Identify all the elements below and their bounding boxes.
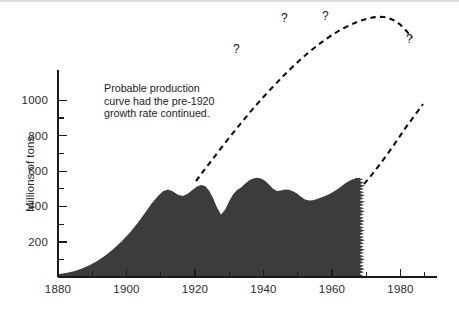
chart-annotation: Probable production curve had the pre-19… — [104, 82, 232, 120]
question-mark-3: ? — [281, 12, 288, 24]
y-tick-label-600: 600 — [8, 165, 48, 177]
post-1973-dashed-curve — [364, 104, 423, 184]
y-tick-label-400: 400 — [8, 200, 48, 212]
question-mark-1: ? — [233, 43, 240, 55]
y-tick-label-200: 200 — [8, 236, 48, 248]
x-tick-label-1900: 1900 — [102, 283, 152, 295]
x-tick-label-1920: 1920 — [170, 283, 220, 295]
chart-plot-svg — [0, 0, 459, 311]
x-tick-label-1880: 1880 — [33, 283, 83, 295]
question-mark-4: ? — [322, 10, 329, 22]
x-tick-label-1960: 1960 — [307, 283, 357, 295]
chart-figure: Millions of tons 1000 800 600 400 200 18… — [0, 0, 459, 311]
truncated-ragged-edge — [355, 178, 365, 277]
x-tick-label-1940: 1940 — [239, 283, 289, 295]
y-tick-label-800: 800 — [8, 130, 48, 142]
production-area-series — [58, 178, 360, 277]
annotation-line-3: growth rate continued. — [104, 107, 232, 120]
annotation-line-2: curve had the pre-1920 — [104, 95, 232, 108]
question-mark-2: ? — [406, 33, 413, 45]
y-tick-label-1000: 1000 — [8, 94, 48, 106]
annotation-line-1: Probable production — [104, 82, 232, 95]
x-tick-label-1980: 1980 — [376, 283, 426, 295]
